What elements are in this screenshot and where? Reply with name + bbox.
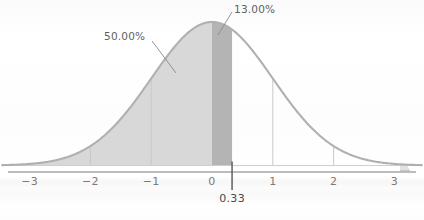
- x-tick-label-4: 1: [269, 175, 276, 188]
- x-tick-label-6: 3: [391, 175, 398, 188]
- x-tick-label-0: −3: [21, 175, 38, 188]
- x-tick-label-2: −1: [143, 175, 160, 188]
- x-tick-label-1: −2: [82, 175, 99, 188]
- x-tick-label-3: 0: [208, 175, 215, 188]
- annotation-label-50pct: 50.00%: [104, 30, 145, 42]
- annotation-label-13pct: 13.00%: [234, 3, 275, 15]
- shaded-region-left-50pct: [2, 22, 212, 166]
- shaded-region-highlight-13pct: [212, 22, 232, 166]
- axis-end-ticks: [400, 167, 410, 171]
- x-tick-label-5: 2: [330, 175, 337, 188]
- distribution-chart-figure: 13.00% 50.00% −3−2−10123 0.33: [0, 0, 424, 220]
- marker-label-0-33: 0.33: [219, 192, 245, 205]
